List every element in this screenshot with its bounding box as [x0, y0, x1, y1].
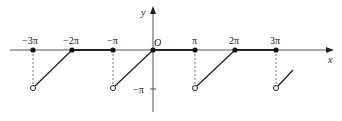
x-axis-arrow-icon [326, 47, 334, 53]
x-tick-label: 2π [229, 35, 239, 46]
x-tick-label: −π [107, 35, 118, 46]
origin-label: O [154, 37, 161, 48]
open-points [31, 86, 279, 91]
x-axis-label: x [327, 54, 333, 65]
y-axis-arrow-icon [150, 6, 156, 14]
slanted-segments [35, 50, 293, 86]
y-tick-label: −π [133, 84, 144, 95]
dashed-guides [33, 50, 276, 86]
x-tick-label: −2π [63, 35, 79, 46]
function-graph: x y O −π −3π −2π −π π 2π 3π [0, 0, 342, 121]
x-tick-label: −3π [22, 35, 38, 46]
y-axis-label: y [140, 7, 146, 18]
x-tick-label: π [192, 35, 197, 46]
x-tick-label: 3π [270, 35, 280, 46]
